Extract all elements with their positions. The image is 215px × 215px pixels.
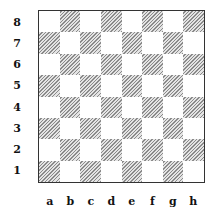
square-a7[interactable] [39, 32, 60, 53]
file-label-h: h [183, 196, 204, 207]
square-d5[interactable] [101, 75, 122, 96]
square-c7[interactable] [80, 32, 101, 53]
square-h5[interactable] [183, 75, 204, 96]
square-e7[interactable] [122, 32, 143, 53]
file-label-f: f [142, 196, 163, 207]
chessboard [38, 10, 205, 183]
square-f1[interactable] [142, 161, 163, 182]
rank-label-3: 3 [8, 123, 26, 134]
square-b3[interactable] [60, 118, 81, 139]
square-e1[interactable] [122, 161, 143, 182]
square-b5[interactable] [60, 75, 81, 96]
square-c2[interactable] [80, 139, 101, 160]
square-h1[interactable] [183, 161, 204, 182]
square-h3[interactable] [183, 118, 204, 139]
rank-label-5: 5 [8, 80, 26, 91]
square-d1[interactable] [101, 161, 122, 182]
square-f7[interactable] [142, 32, 163, 53]
file-label-a: a [40, 196, 61, 207]
rank-label-1: 1 [8, 165, 26, 176]
file-label-g: g [163, 196, 184, 207]
square-f2[interactable] [142, 139, 163, 160]
square-g4[interactable] [163, 97, 184, 118]
square-b4[interactable] [60, 97, 81, 118]
square-a4[interactable] [39, 97, 60, 118]
square-d6[interactable] [101, 54, 122, 75]
square-e3[interactable] [122, 118, 143, 139]
square-b8[interactable] [60, 11, 81, 32]
square-f4[interactable] [142, 97, 163, 118]
file-label-d: d [101, 196, 122, 207]
rank-label-6: 6 [8, 59, 26, 70]
square-h4[interactable] [183, 97, 204, 118]
square-f5[interactable] [142, 75, 163, 96]
square-a6[interactable] [39, 54, 60, 75]
square-d3[interactable] [101, 118, 122, 139]
rank-label-7: 7 [8, 38, 26, 49]
square-h2[interactable] [183, 139, 204, 160]
square-c4[interactable] [80, 97, 101, 118]
rank-label-2: 2 [8, 144, 26, 155]
square-d7[interactable] [101, 32, 122, 53]
file-label-c: c [81, 196, 102, 207]
square-g7[interactable] [163, 32, 184, 53]
square-f8[interactable] [142, 11, 163, 32]
square-a3[interactable] [39, 118, 60, 139]
square-f3[interactable] [142, 118, 163, 139]
square-c5[interactable] [80, 75, 101, 96]
square-a8[interactable] [39, 11, 60, 32]
square-b6[interactable] [60, 54, 81, 75]
file-label-e: e [122, 196, 143, 207]
square-c8[interactable] [80, 11, 101, 32]
rank-label-8: 8 [8, 17, 26, 28]
square-h7[interactable] [183, 32, 204, 53]
square-h6[interactable] [183, 54, 204, 75]
square-e8[interactable] [122, 11, 143, 32]
rank-label-4: 4 [8, 102, 26, 113]
file-label-b: b [60, 196, 81, 207]
square-e2[interactable] [122, 139, 143, 160]
square-g2[interactable] [163, 139, 184, 160]
square-c6[interactable] [80, 54, 101, 75]
square-b2[interactable] [60, 139, 81, 160]
square-e5[interactable] [122, 75, 143, 96]
square-a5[interactable] [39, 75, 60, 96]
square-h8[interactable] [183, 11, 204, 32]
square-g3[interactable] [163, 118, 184, 139]
square-d8[interactable] [101, 11, 122, 32]
square-c1[interactable] [80, 161, 101, 182]
square-g8[interactable] [163, 11, 184, 32]
square-f6[interactable] [142, 54, 163, 75]
square-d2[interactable] [101, 139, 122, 160]
square-c3[interactable] [80, 118, 101, 139]
square-a1[interactable] [39, 161, 60, 182]
square-e6[interactable] [122, 54, 143, 75]
square-e4[interactable] [122, 97, 143, 118]
square-g5[interactable] [163, 75, 184, 96]
square-b7[interactable] [60, 32, 81, 53]
square-a2[interactable] [39, 139, 60, 160]
square-d4[interactable] [101, 97, 122, 118]
square-g1[interactable] [163, 161, 184, 182]
square-g6[interactable] [163, 54, 184, 75]
square-b1[interactable] [60, 161, 81, 182]
